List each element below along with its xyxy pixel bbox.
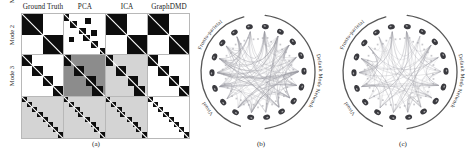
caption-c: (c)	[369, 140, 437, 148]
connectome-node[interactable]	[360, 39, 368, 48]
ring-tick	[427, 91, 429, 93]
row-header-mode-3: Mode 3	[8, 14, 15, 138]
ring-tick	[421, 44, 423, 46]
matrix-diagonal-line	[106, 55, 147, 96]
connectome-node[interactable]	[289, 38, 298, 47]
network-label-fronto-parietal: Fronto-parietal	[196, 18, 223, 50]
matrix-diagonal-line	[64, 55, 105, 96]
ring-tick	[395, 38, 397, 40]
column-header-graphdmd: GraphDMD	[143, 2, 195, 13]
matrix-diagonal-line	[22, 97, 63, 138]
network-label-visual: Visual	[342, 101, 356, 117]
matrix-diagonal-line	[22, 14, 63, 55]
matrix-cell-pca-mode-1	[64, 14, 105, 55]
matrix-grid	[22, 14, 190, 138]
connectome-node[interactable]	[297, 51, 304, 59]
edge-bundle	[359, 32, 441, 113]
network-label-visual: Visual	[200, 101, 214, 117]
matrix-diagonal-line	[22, 55, 63, 96]
ring-tick	[413, 104, 415, 106]
connectome-node[interactable]	[405, 114, 413, 120]
connectome-node[interactable]	[419, 107, 428, 115]
connectome-node[interactable]	[440, 83, 447, 91]
ring-tick	[253, 38, 255, 40]
connectome-node[interactable]	[298, 83, 305, 91]
matrix-cell-graphdmd-mode-3	[148, 97, 189, 138]
matrix-diagonal-line	[106, 14, 147, 55]
connectome-node[interactable]	[431, 38, 440, 47]
connectome-edge	[407, 32, 441, 72]
matrix-cell-graphdmd-mode-1	[148, 14, 189, 55]
matrix-cell-ground-truth-mode-2	[22, 55, 63, 96]
ring-tick	[433, 78, 435, 80]
connectome-node[interactable]	[209, 69, 214, 76]
matrix-row-1	[22, 14, 190, 55]
matrix-row-headers: Mode 1 Mode 2 Mode 3	[8, 14, 22, 138]
connectome-node[interactable]	[372, 28, 381, 36]
connectome-node[interactable]	[443, 68, 448, 75]
connectome-node[interactable]	[373, 108, 382, 116]
ring-tick	[368, 55, 370, 57]
connectome-node[interactable]	[276, 28, 285, 36]
panel-b-connectome: Fronto-parietalDefault Mode NetworkVisua…	[190, 0, 332, 159]
connectome-node[interactable]	[389, 114, 397, 120]
matrix-diagonal-line	[148, 97, 189, 138]
connectome-node[interactable]	[211, 84, 218, 92]
connectome-node[interactable]	[431, 97, 439, 106]
connectome-node[interactable]	[247, 114, 255, 120]
panel-c-connectome: Fronto-parietalDefault Mode NetworkVisua…	[332, 0, 474, 159]
connectome-node[interactable]	[353, 53, 360, 61]
connectome-node[interactable]	[418, 28, 427, 36]
connectome-node[interactable]	[230, 28, 239, 36]
matrix-diagonal-line	[106, 97, 147, 138]
ring-tick	[386, 40, 388, 42]
connectome-diagram-c: Fronto-parietalDefault Mode NetworkVisua…	[332, 0, 474, 159]
column-header-ica: ICA	[106, 2, 148, 13]
ring-tick	[257, 107, 259, 109]
column-header-ground-truth: Ground Truth	[18, 2, 68, 13]
ring-tick	[399, 38, 401, 40]
connectome-node[interactable]	[219, 98, 228, 107]
panel-a-matrix-grid: Ground Truth PCA ICA GraphDMD Mode 1 Mod…	[0, 0, 192, 159]
ring-tick	[279, 44, 281, 46]
ring-tick	[271, 104, 273, 106]
matrix-diagonal-line	[64, 97, 105, 138]
ring-tick	[420, 97, 422, 99]
matrix-column-headers: Ground Truth PCA ICA GraphDMD	[22, 2, 190, 14]
connectome-node[interactable]	[263, 114, 271, 120]
ring-tick	[404, 37, 406, 39]
connectome-node[interactable]	[211, 53, 218, 61]
connectome-node[interactable]	[289, 97, 297, 106]
ring-tick	[235, 44, 237, 46]
connectome-node[interactable]	[353, 84, 360, 92]
matrix-cell-graphdmd-mode-2	[148, 55, 189, 96]
connectome-diagram-b: Fronto-parietalDefault Mode NetworkVisua…	[190, 0, 332, 159]
matrix-cell-pca-mode-2	[64, 55, 105, 96]
ring-tick	[412, 41, 414, 43]
connectome-node[interactable]	[277, 107, 286, 115]
connectome-node[interactable]	[387, 24, 395, 30]
ring-tick	[226, 55, 228, 57]
caption-b: (b)	[227, 140, 295, 148]
ring-tick	[431, 55, 433, 57]
ring-tick	[399, 107, 401, 109]
connectome-node[interactable]	[261, 23, 269, 29]
network-label-fronto-parietal: Fronto-parietal	[338, 18, 365, 50]
connectome-node[interactable]	[361, 98, 370, 107]
connectome-node[interactable]	[439, 51, 446, 59]
ring-tick	[289, 55, 291, 57]
ring-tick	[257, 38, 259, 40]
matrix-cell-ground-truth-mode-3	[22, 97, 63, 138]
connectome-node[interactable]	[301, 68, 306, 75]
ring-tick	[385, 104, 387, 106]
connectome-node[interactable]	[218, 39, 226, 48]
edge-bundle	[217, 32, 299, 113]
figure-root: Ground Truth PCA ICA GraphDMD Mode 1 Mod…	[0, 0, 474, 159]
connectome-node[interactable]	[231, 108, 240, 116]
ring-tick	[377, 44, 379, 46]
connectome-node[interactable]	[245, 24, 253, 30]
column-header-pca: PCA	[64, 2, 106, 13]
matrix-diagonal-line	[148, 55, 189, 96]
connectome-node[interactable]	[403, 23, 411, 29]
connectome-node[interactable]	[351, 69, 356, 76]
